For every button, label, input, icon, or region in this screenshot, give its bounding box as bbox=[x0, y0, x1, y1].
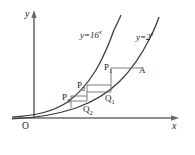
y-axis-label: y bbox=[25, 9, 29, 19]
point-label-subscript: 2 bbox=[90, 109, 93, 116]
point-label-subscript: 2 bbox=[82, 85, 85, 92]
point-label-q2: Q2 bbox=[83, 105, 93, 116]
curve-label-2x: y=2x bbox=[136, 31, 153, 42]
point-label-a: A bbox=[139, 66, 146, 75]
curve-label-2x-base: y=2 bbox=[136, 32, 151, 42]
point-label-q1: Q1 bbox=[105, 94, 115, 105]
point-label-subscript: 1 bbox=[112, 98, 115, 105]
point-label-base: A bbox=[139, 65, 146, 75]
curve-label-16x-base: y=16 bbox=[80, 30, 99, 40]
curve-label-2x-exponent: x bbox=[151, 31, 154, 37]
point-label-p1: P1 bbox=[104, 63, 112, 74]
math-figure bbox=[0, 0, 195, 155]
point-label-subscript: 1 bbox=[109, 67, 112, 74]
curve-label-16x-exponent: x bbox=[99, 29, 102, 35]
y-axis bbox=[31, 10, 36, 118]
x-axis-label: x bbox=[172, 121, 176, 131]
x-axis bbox=[12, 115, 179, 120]
point-label-p3: P3 bbox=[62, 93, 70, 104]
curve-label-16x: y=16x bbox=[80, 29, 102, 40]
origin-label: O bbox=[22, 122, 29, 132]
point-label-p2: P2 bbox=[77, 81, 85, 92]
point-label-subscript: 3 bbox=[67, 97, 70, 104]
